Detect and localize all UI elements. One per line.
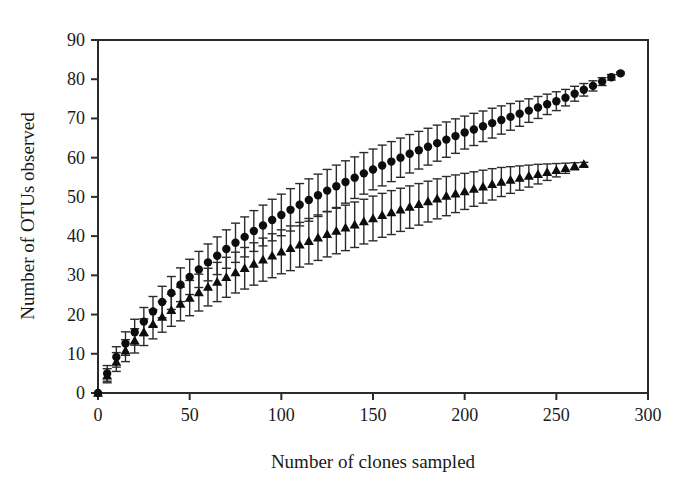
y-tick-label: 70 — [67, 108, 85, 128]
data-point-circle — [570, 90, 578, 98]
data-point-circle — [470, 125, 478, 133]
y-tick-label: 90 — [67, 30, 85, 50]
x-tick-label: 100 — [268, 405, 295, 425]
data-point-circle — [231, 239, 239, 247]
data-point-circle — [589, 82, 597, 90]
chart-canvas: 050100150200250300 0102030405060708090 N… — [0, 0, 695, 490]
data-point-circle — [360, 169, 368, 177]
data-point-circle — [543, 100, 551, 108]
x-tick-label: 150 — [360, 405, 387, 425]
data-point-circle — [332, 182, 340, 190]
data-point-circle — [580, 86, 588, 94]
y-tick-label: 10 — [67, 344, 85, 364]
rarefaction-chart-figure: 050100150200250300 0102030405060708090 N… — [0, 0, 695, 490]
data-point-circle — [460, 128, 468, 136]
x-tick-label: 200 — [451, 405, 478, 425]
data-point-circle — [185, 273, 193, 281]
data-point-circle — [204, 258, 212, 266]
y-tick-label: 80 — [67, 69, 85, 89]
data-point-circle — [314, 191, 322, 199]
data-point-circle — [158, 298, 166, 306]
data-point-circle — [176, 281, 184, 289]
data-point-circle — [525, 106, 533, 114]
x-tick-label: 250 — [543, 405, 570, 425]
data-point-circle — [167, 289, 175, 297]
data-point-circle — [250, 227, 258, 235]
data-point-circle — [277, 211, 285, 219]
y-tick-label: 20 — [67, 305, 85, 325]
data-point-circle — [149, 307, 157, 315]
y-tick-label: 0 — [76, 383, 85, 403]
data-point-circle — [213, 252, 221, 260]
data-point-circle — [479, 122, 487, 130]
data-point-circle — [451, 132, 459, 140]
data-point-circle — [433, 139, 441, 147]
y-axis-title: Number of OTUs observed — [17, 112, 38, 320]
data-point-circle — [259, 221, 267, 229]
data-point-circle — [396, 153, 404, 161]
data-point-circle — [268, 216, 276, 224]
data-point-circle — [369, 165, 377, 173]
data-point-circle — [295, 201, 303, 209]
data-point-circle — [497, 116, 505, 124]
y-tick-label: 60 — [67, 148, 85, 168]
data-point-circle — [442, 135, 450, 143]
data-point-circle — [616, 69, 624, 77]
x-tick-label: 50 — [181, 405, 199, 425]
y-tick-label: 30 — [67, 265, 85, 285]
data-point-circle — [222, 245, 230, 253]
data-point-circle — [598, 77, 606, 85]
data-point-circle — [405, 150, 413, 158]
data-point-circle — [286, 206, 294, 214]
data-point-circle — [350, 173, 358, 181]
x-tick-label: 300 — [635, 405, 662, 425]
data-point-circle — [415, 146, 423, 154]
y-tick-label: 50 — [67, 187, 85, 207]
data-point-circle — [515, 110, 523, 118]
data-point-circle — [305, 196, 313, 204]
data-point-circle — [387, 157, 395, 165]
chart-background — [0, 0, 695, 490]
data-point-circle — [378, 161, 386, 169]
data-point-circle — [488, 119, 496, 127]
x-tick-label: 0 — [94, 405, 103, 425]
data-point-circle — [130, 328, 138, 336]
data-point-circle — [341, 178, 349, 186]
data-point-circle — [323, 186, 331, 194]
data-point-circle — [506, 113, 514, 121]
data-point-circle — [552, 97, 560, 105]
data-point-circle — [607, 73, 615, 81]
data-point-circle — [240, 233, 248, 241]
data-point-circle — [424, 142, 432, 150]
data-point-circle — [195, 265, 203, 273]
x-axis-title: Number of clones sampled — [271, 451, 476, 472]
data-point-circle — [561, 93, 569, 101]
y-tick-label: 40 — [67, 226, 85, 246]
data-point-circle — [140, 317, 148, 325]
data-point-circle — [534, 103, 542, 111]
